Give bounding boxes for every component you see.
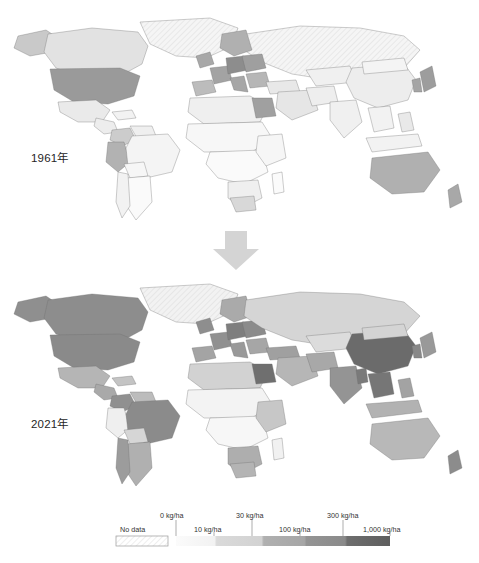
figure-root: 1961年 — [0, 0, 479, 563]
legend-label-0: 0 kg/ha — [160, 511, 184, 520]
region-madagascar — [272, 172, 284, 194]
region-australia — [370, 152, 440, 194]
region-chile — [116, 438, 130, 484]
legend-label-10: 10 kg/ha — [194, 525, 222, 534]
region-new-zealand — [448, 450, 462, 474]
region-bangladesh — [356, 368, 368, 384]
region-iberia — [192, 346, 216, 362]
legend-svg: No data 0 kg/ha 30 kg/ha 300 kg/ha 10 kg… — [0, 506, 479, 558]
legend-label-1000: 1,000 kg/ha — [363, 525, 401, 534]
map-panel-1961 — [0, 6, 479, 228]
region-caribbean — [112, 110, 136, 120]
region-korea — [412, 344, 422, 358]
region-indonesia — [366, 400, 422, 418]
legend-label-300: 300 kg/ha — [327, 511, 359, 520]
region-poland-central-europe — [242, 54, 266, 72]
legend: No data 0 kg/ha 30 kg/ha 300 kg/ha 10 kg… — [0, 506, 479, 558]
region-caribbean — [112, 376, 136, 386]
region-indonesia — [366, 134, 422, 152]
region-chile — [116, 172, 130, 218]
world-map-1961 — [0, 6, 479, 228]
year-label-2021: 2021年 — [31, 415, 69, 431]
legend-label-30: 30 kg/ha — [236, 511, 264, 520]
region-vietnam-southeast-asia — [368, 372, 394, 398]
legend-label-100: 100 kg/ha — [279, 525, 311, 534]
region-south-africa — [230, 196, 256, 212]
arrow-down-icon — [206, 229, 266, 273]
transition-arrow — [206, 229, 266, 273]
region-egypt — [252, 98, 276, 118]
region-balkans — [246, 338, 270, 354]
region-japan — [420, 66, 436, 92]
region-southeast-asia — [368, 106, 394, 132]
region-india — [330, 100, 362, 138]
region-united-states — [50, 68, 140, 104]
legend-no-data-swatch — [116, 536, 168, 546]
region-madagascar — [272, 438, 284, 460]
legend-gradient-bar — [176, 536, 390, 546]
region-korea — [412, 78, 422, 92]
region-philippines — [398, 378, 414, 398]
year-label-1961: 1961年 — [31, 149, 69, 165]
region-japan — [420, 332, 436, 358]
region-balkans — [246, 72, 270, 88]
region-egypt — [252, 364, 276, 384]
world-map-2021 — [0, 272, 479, 494]
region-italy — [230, 342, 248, 358]
region-south-africa — [230, 462, 256, 478]
region-australia — [370, 418, 440, 460]
region-italy — [230, 76, 248, 92]
region-philippines — [398, 112, 414, 132]
region-new-zealand — [448, 184, 462, 208]
region-united-states — [50, 334, 140, 370]
legend-no-data-label: No data — [120, 525, 145, 534]
region-iberia — [192, 80, 216, 96]
map-panel-2021 — [0, 272, 479, 494]
